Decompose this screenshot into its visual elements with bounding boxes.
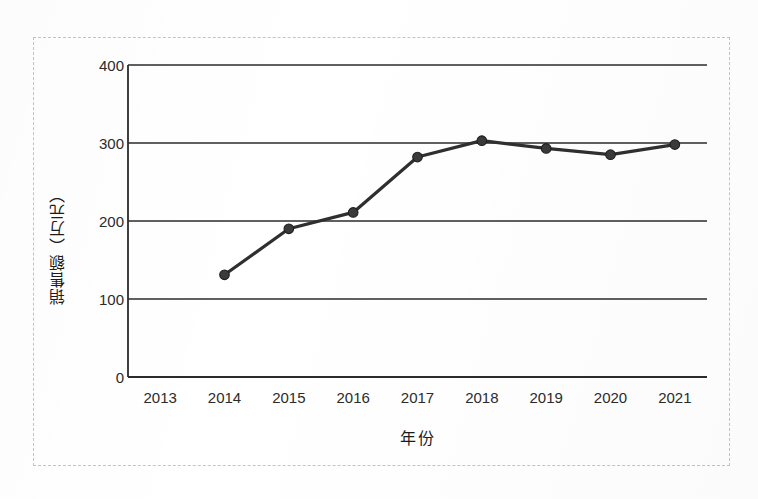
x-tick-label: 2018 [447,389,517,406]
x-tick-label: 2017 [383,389,453,406]
x-tick-label: 2019 [511,389,581,406]
x-tick-label: 2014 [190,389,260,406]
x-tick-label: 2021 [640,389,710,406]
x-tick-label: 2016 [318,389,388,406]
y-axis-title-text: 销售额（万元） [47,186,71,305]
x-tick-label: 2015 [254,389,324,406]
x-axis-title: 年份 [128,425,708,449]
y-axis-title: 销售额（万元） [44,150,74,340]
x-tick-label: 2013 [125,389,195,406]
x-tick-label: 2020 [576,389,646,406]
